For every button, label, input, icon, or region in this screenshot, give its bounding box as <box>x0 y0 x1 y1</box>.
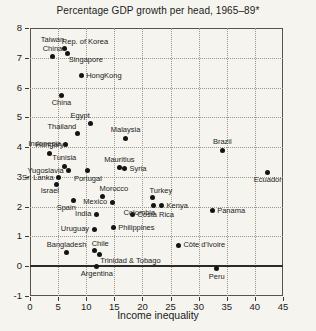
y-tick-label-0: 0 <box>2 260 22 271</box>
x-tick-label-5: 5 <box>48 301 68 312</box>
grid-line-y-3 <box>30 177 283 178</box>
x-tick-label-0: 0 <box>20 301 40 312</box>
point-label-singapore: Singapore <box>69 56 103 64</box>
point-label-chile: Chile <box>92 239 109 247</box>
y-tick-label-3: 3 <box>2 171 22 182</box>
point-label-trinidad-tobago: Trinidad & Tobago <box>100 257 160 265</box>
point-label-spain: Spain <box>57 204 76 212</box>
y-axis-tick-2 <box>25 207 29 208</box>
point-label-uruguay: Uruguay <box>61 225 89 233</box>
zero-baseline <box>30 265 283 267</box>
y-tick-label-2: 2 <box>2 201 22 212</box>
y-tick-label-4: 4 <box>2 141 22 152</box>
chart-title: Percentage GDP growth per head, 1965–89* <box>0 5 316 16</box>
point-label-brazil: Brazil <box>213 138 232 146</box>
x-tick-label-40: 40 <box>245 301 265 312</box>
gdp-growth-income-inequality-scatter-chart: Percentage GDP growth per head, 1965–89*… <box>0 0 316 331</box>
x-tick-label-45: 45 <box>273 301 293 312</box>
grid-line-y-4 <box>30 147 283 148</box>
x-tick-label-20: 20 <box>132 301 152 312</box>
y-tick-label-7: 7 <box>2 52 22 63</box>
grid-line-x-40 <box>255 28 256 296</box>
point-label-hongkong: HongKong <box>86 72 121 80</box>
point-label-syria: Syria <box>129 165 146 173</box>
point-label-portugal: Portugal <box>74 175 102 183</box>
data-point-thailand <box>75 131 80 136</box>
data-point-hongkong <box>79 73 84 78</box>
point-label-malaysia: Malaysia <box>111 126 141 134</box>
point-label-israel: Israel <box>41 187 59 195</box>
point-label-thailand: Thailand <box>47 122 76 130</box>
data-point-mexico <box>110 200 115 205</box>
data-point-china <box>59 93 64 98</box>
x-tick-label-25: 25 <box>161 301 181 312</box>
x-tick-label-30: 30 <box>189 301 209 312</box>
grid-line-y-1 <box>30 236 283 237</box>
data-point-brazil <box>220 148 225 153</box>
x-tick-label-15: 15 <box>104 301 124 312</box>
y-axis-tick-6 <box>25 88 29 89</box>
y-axis-tick-8 <box>25 28 29 29</box>
y-tick-label-8: 8 <box>2 22 22 33</box>
x-tick-label-35: 35 <box>217 301 237 312</box>
grid-line-x-30 <box>199 28 200 296</box>
point-label-turkey: Turkey <box>150 186 173 194</box>
grid-line-x-25 <box>171 28 172 296</box>
point-label-china: China <box>52 99 72 107</box>
point-label-c-te-d-ivoire: Côte d'Ivoire <box>183 241 225 249</box>
data-point-philippines <box>111 225 116 230</box>
y-tick-label--1: -1 <box>2 290 22 301</box>
grid-line-y-6 <box>30 88 283 89</box>
point-label-peru: Peru <box>209 273 225 281</box>
y-axis-tick--1 <box>25 296 29 297</box>
point-label-egypt: Egypt <box>71 112 90 120</box>
point-label-philippines: Philippines <box>118 223 154 231</box>
point-label-mauritius: Mauritius <box>104 156 134 164</box>
point-label-hungary: Hungary <box>35 141 63 149</box>
data-point-malaysia <box>123 136 128 141</box>
point-label-argentina: Argentina <box>81 270 113 278</box>
x-tick-label-10: 10 <box>76 301 96 312</box>
point-label-costa-rica: Costa Rica <box>137 211 174 219</box>
data-point-egypt <box>88 121 93 126</box>
point-label-tunisia: Tunisia <box>52 154 76 162</box>
y-tick-label-1: 1 <box>2 230 22 241</box>
point-label-sri-lanka: Sri Lanka <box>22 174 54 182</box>
point-label-mexico: Mexico <box>83 198 107 206</box>
y-axis-tick-5 <box>25 117 29 118</box>
grid-line-x-10 <box>86 28 87 296</box>
grid-line-y-5 <box>30 117 283 118</box>
point-label-panama: Panama <box>217 207 245 215</box>
y-axis-tick-1 <box>25 236 29 237</box>
point-label-morocco: Morocco <box>100 185 129 193</box>
point-label-ecuador: Ecuador <box>254 176 282 184</box>
grid-line-x-35 <box>227 28 228 296</box>
y-tick-label-6: 6 <box>2 82 22 93</box>
data-point-taiwan-china <box>50 54 55 59</box>
data-point-uruguay <box>92 227 97 232</box>
y-axis-tick-0 <box>25 266 29 267</box>
data-point-c-te-d-ivoire <box>176 243 181 248</box>
point-label-taiwan-china: Taiwan China <box>41 36 64 53</box>
point-label-bangladesh: Bangladesh <box>47 240 87 248</box>
y-tick-label-5: 5 <box>2 111 22 122</box>
point-label-india: India <box>75 210 91 218</box>
point-label-rep-of-korea: Rep. of Korea <box>62 38 108 46</box>
data-point-india <box>94 212 99 217</box>
y-axis-tick-7 <box>25 58 29 59</box>
